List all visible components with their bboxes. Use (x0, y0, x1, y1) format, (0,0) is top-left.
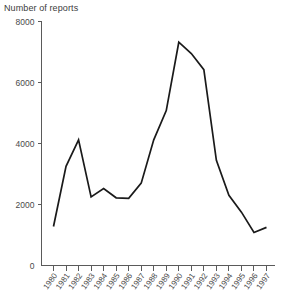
x-axis-tick-label: 1997 (255, 271, 273, 291)
x-axis-tick-group: 1980198119821983198419851986198719881989… (42, 266, 273, 292)
y-axis-tick-label: 0 (30, 261, 35, 271)
y-axis-tick-group: 02000400060008000 (16, 17, 42, 271)
line-chart-plot: 02000400060008000 1980198119821983198419… (0, 0, 285, 294)
y-axis-tick-label: 8000 (16, 17, 35, 27)
y-axis-tick-label: 4000 (16, 139, 35, 149)
data-series-line (54, 42, 267, 232)
y-axis-tick-label: 6000 (16, 78, 35, 88)
y-axis-tick-label: 2000 (16, 200, 35, 210)
chart-container: Number of reports 02000400060008000 1980… (0, 0, 285, 294)
